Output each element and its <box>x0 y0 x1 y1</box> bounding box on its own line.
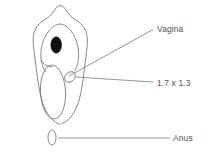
leader-line-measurement <box>76 77 153 82</box>
vestibule-oval <box>39 64 67 119</box>
clitoris-marker <box>51 37 62 53</box>
label-vagina: Vagina <box>157 24 183 34</box>
label-anus: Anus <box>173 133 193 143</box>
anus-oval <box>48 130 56 145</box>
labial-outline-right <box>60 24 79 71</box>
label-measurement: 1.7 x 1.3 <box>157 78 191 88</box>
perineum-outline <box>33 6 60 125</box>
diagram-canvas: Vagina 1.7 x 1.3 Anus <box>0 0 219 160</box>
leader-line-vagina <box>69 30 153 77</box>
